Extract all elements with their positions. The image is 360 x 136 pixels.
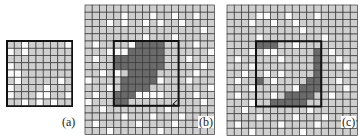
grid-cell	[22, 48, 29, 55]
grid-cell	[227, 107, 234, 114]
grid-cell	[234, 27, 241, 34]
grid-cell	[171, 48, 178, 55]
grid-cell	[271, 70, 278, 77]
grid-cell	[300, 63, 307, 70]
grid-cell	[114, 106, 121, 113]
grid-cell	[300, 5, 307, 12]
grid-cell	[278, 12, 285, 19]
grid-cell	[249, 34, 256, 41]
grid-cell	[143, 48, 150, 55]
grid-cell	[179, 19, 186, 26]
grid-cell	[263, 107, 270, 114]
grid-cell	[193, 41, 200, 48]
grid-cell	[36, 41, 43, 48]
grid-cell	[249, 114, 256, 121]
grid-cell	[343, 63, 350, 70]
grid-cell	[164, 84, 171, 91]
grid-cell	[179, 113, 186, 120]
grid-cell	[92, 113, 99, 120]
grid-cell	[36, 70, 43, 77]
grid-cell	[307, 121, 314, 128]
grid-cell	[256, 99, 263, 106]
grid-cell	[300, 92, 307, 99]
grid-cell	[29, 63, 36, 70]
grid-cell	[329, 49, 336, 56]
grid-cell	[227, 56, 234, 63]
grid-cell	[350, 49, 357, 56]
grid-cell	[85, 113, 92, 120]
grid-cell	[43, 56, 50, 63]
grid-cell	[200, 19, 207, 26]
grid-cell	[278, 49, 285, 56]
grid-cell	[186, 41, 193, 48]
panel-a-label: (a)	[61, 116, 76, 128]
grid-cell	[234, 56, 241, 63]
grid-cell	[292, 128, 299, 135]
grid-cell	[85, 106, 92, 113]
grid-cell	[179, 48, 186, 55]
grid-cell	[307, 5, 314, 12]
grid-cell	[51, 85, 58, 92]
grid-cell	[249, 20, 256, 27]
grid-cell	[207, 77, 214, 84]
grid-cell	[300, 70, 307, 77]
grid-cell	[321, 49, 328, 56]
grid-cell	[329, 78, 336, 85]
grid-cell	[179, 63, 186, 70]
grid-cell	[114, 120, 121, 127]
grid-cell	[321, 99, 328, 106]
grid-cell	[14, 92, 21, 99]
grid-cell	[314, 70, 321, 77]
grid-cell	[329, 56, 336, 63]
grid-cell	[107, 63, 114, 70]
grid-cell	[179, 12, 186, 19]
panel-c-label: (c)	[341, 116, 356, 128]
grid-cell	[14, 70, 21, 77]
grid-cell	[227, 70, 234, 77]
grid-cell	[135, 106, 142, 113]
grid-cell	[186, 91, 193, 98]
grid-cell	[107, 55, 114, 62]
grid-cell	[157, 63, 164, 70]
grid-cell	[186, 34, 193, 41]
grid-cell	[278, 128, 285, 135]
grid-cell	[234, 49, 241, 56]
grid-cell	[300, 78, 307, 85]
grid-cell	[164, 27, 171, 34]
grid-cell	[278, 41, 285, 48]
grid-cell	[114, 19, 121, 26]
grid-cell	[207, 48, 214, 55]
grid-cell	[58, 99, 65, 106]
grid-cell	[329, 5, 336, 12]
grid-cell	[350, 128, 357, 135]
grid-cell	[263, 5, 270, 12]
grid-cell	[343, 12, 350, 19]
grid-cell	[329, 20, 336, 27]
grid-cell	[58, 41, 65, 48]
grid-cell	[292, 41, 299, 48]
grid-cell	[249, 5, 256, 12]
grid-cell	[85, 70, 92, 77]
grid-cell	[14, 48, 21, 55]
grid-cell	[329, 70, 336, 77]
grid-cell	[65, 85, 72, 92]
grid-cell	[128, 113, 135, 120]
grid-cell	[321, 121, 328, 128]
grid-cell	[51, 63, 58, 70]
grid-cell	[307, 12, 314, 19]
grid-cell	[186, 70, 193, 77]
grid-cell	[179, 5, 186, 12]
grid-cell	[329, 12, 336, 19]
grid-cell	[179, 127, 186, 134]
grid-cell	[121, 34, 128, 41]
grid-cell	[200, 12, 207, 19]
grid-cell	[7, 41, 14, 48]
grid-cell	[92, 27, 99, 34]
grid-cell	[92, 106, 99, 113]
grid-cell	[292, 20, 299, 27]
grid-cell	[242, 121, 249, 128]
grid-cell	[292, 121, 299, 128]
grid-cell	[314, 12, 321, 19]
grid-cell	[14, 77, 21, 84]
grid-cell	[300, 20, 307, 27]
